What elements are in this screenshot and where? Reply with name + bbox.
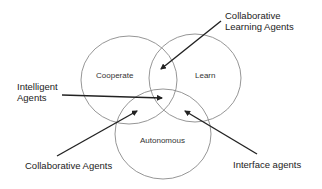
collab-learning-label: Collaborative Learning Agents [225, 10, 294, 32]
learn-label: Learn [195, 71, 215, 80]
autonomous-label: Autonomous [140, 136, 185, 145]
collab-learning-arrow [161, 21, 221, 69]
interface-arrow [185, 111, 257, 154]
autonomous-circle [115, 89, 211, 179]
intelligent-arrow [62, 95, 162, 98]
intelligent-line1: Intelligent [17, 81, 58, 92]
collaborative-label: Collaborative Agents [25, 160, 112, 171]
collab-learning-line2: Learning Agents [225, 21, 294, 32]
interface-label: Interface agents [233, 159, 301, 170]
collaborative-arrow [57, 111, 137, 156]
cooperate-circle [81, 36, 177, 124]
collab-learning-line1: Collaborative [225, 10, 294, 21]
venn-diagram: Cooperate Learn Autonomous Collaborative… [0, 0, 322, 189]
intelligent-line2: Agents [17, 92, 58, 103]
intelligent-label: Intelligent Agents [17, 81, 58, 103]
cooperate-label: Cooperate [96, 71, 133, 80]
